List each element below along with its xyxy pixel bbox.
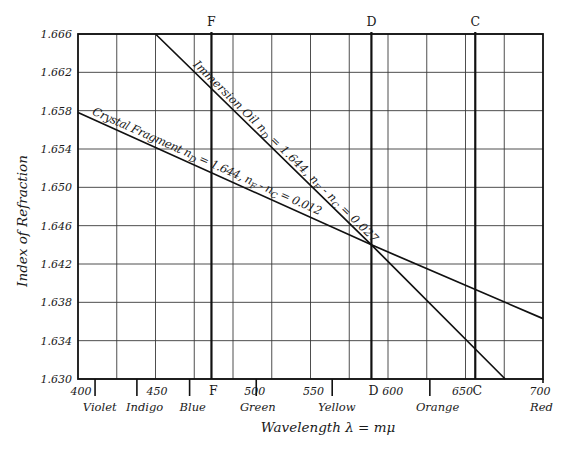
annotation-immersion-oil: Immersion Oil nD = 1.644, nF - nC = 0.02… <box>189 57 382 248</box>
y-tick-label: 1.638 <box>41 296 73 309</box>
y-tick-label: 1.646 <box>41 220 73 233</box>
color-band-label: Orange <box>416 400 460 414</box>
x-tick-label: 450 <box>146 385 168 398</box>
annotation-text: Crystal Fragment n <box>90 104 194 160</box>
x-axis-title: Wavelength λ = mμ <box>261 419 396 435</box>
fraunhofer-top-label: D <box>366 14 376 29</box>
x-tick-label: 400 <box>70 385 92 398</box>
y-tick-label: 1.642 <box>41 258 73 271</box>
fraunhofer-top-label: F <box>207 14 216 29</box>
x-tick-label: 500 <box>244 385 265 398</box>
y-tick-label: 1.634 <box>41 335 73 348</box>
fraunhofer-lines: FDC <box>207 14 480 379</box>
y-tick-label: 1.662 <box>41 66 73 79</box>
x-tick-label: 700 <box>529 385 550 398</box>
y-tick-label: 1.666 <box>41 28 73 41</box>
y-tick-label: 1.654 <box>41 143 73 156</box>
refraction-dispersion-chart: FDC Immersion Oil nD = 1.644, nF - nC = … <box>0 0 568 455</box>
y-axis-title: Index of Refraction <box>14 155 30 288</box>
y-axis: 1.6301.6341.6381.6421.6461.6501.6541.658… <box>41 28 73 386</box>
color-band-label: Indigo <box>125 400 163 414</box>
fraunhofer-bottom-label: F <box>209 383 218 398</box>
y-tick-label: 1.630 <box>41 373 73 386</box>
color-band-label: Green <box>240 400 276 414</box>
annotation-text: Immersion Oil n <box>190 57 269 135</box>
x-tick-label: 550 <box>303 385 324 398</box>
fraunhofer-bottom-label: C <box>472 383 482 398</box>
color-band-label: Red <box>529 400 553 414</box>
color-band-label: Blue <box>179 400 207 414</box>
x-tick-label: 600 <box>382 385 403 398</box>
color-band-label: Yellow <box>318 400 356 414</box>
x-axis: FDC400450500550600650700VioletIndigoBlue… <box>70 379 553 414</box>
fraunhofer-bottom-label: D <box>368 383 378 398</box>
y-tick-label: 1.658 <box>41 105 73 118</box>
series-annotations: Immersion Oil nD = 1.644, nF - nC = 0.02… <box>90 57 382 248</box>
color-band-label: Violet <box>83 400 117 414</box>
annotation-text: = 1.644, n <box>265 130 322 187</box>
y-tick-label: 1.650 <box>41 181 73 194</box>
fraunhofer-top-label: C <box>470 14 480 29</box>
x-tick-label: 650 <box>452 385 473 398</box>
